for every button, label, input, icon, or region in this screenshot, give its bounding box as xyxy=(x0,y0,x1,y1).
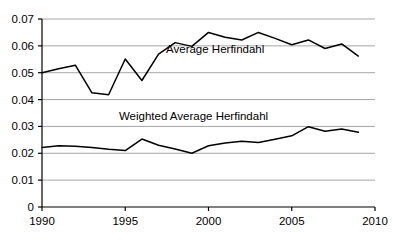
chart-container: 00.010.020.030.040.050.060.07 1990199520… xyxy=(0,0,393,242)
y-tick-label-0.07: 0.07 xyxy=(12,13,34,25)
x-tick-label-2010: 2010 xyxy=(362,215,388,227)
y-tick-label-0.01: 0.01 xyxy=(12,174,34,186)
series-label-average-herfindahl: Average Herfindahl xyxy=(166,43,264,55)
y-tick-label-0.05: 0.05 xyxy=(12,67,34,79)
x-tick-label-2005: 2005 xyxy=(279,215,305,227)
x-tick-label-2000: 2000 xyxy=(196,215,222,227)
x-tick-label-1990: 1990 xyxy=(29,215,55,227)
y-tick-label-0.02: 0.02 xyxy=(12,147,34,159)
series-label-weighted-average-herfindahl: Weighted Average Herfindahl xyxy=(119,110,268,122)
line-chart: 00.010.020.030.040.050.060.07 1990199520… xyxy=(0,0,393,242)
y-tick-label-0.06: 0.06 xyxy=(12,40,34,52)
y-tick-label-0: 0 xyxy=(28,201,34,213)
x-tick-label-1995: 1995 xyxy=(112,215,138,227)
y-tick-label-0.04: 0.04 xyxy=(12,94,35,106)
y-tick-label-0.03: 0.03 xyxy=(12,120,34,132)
